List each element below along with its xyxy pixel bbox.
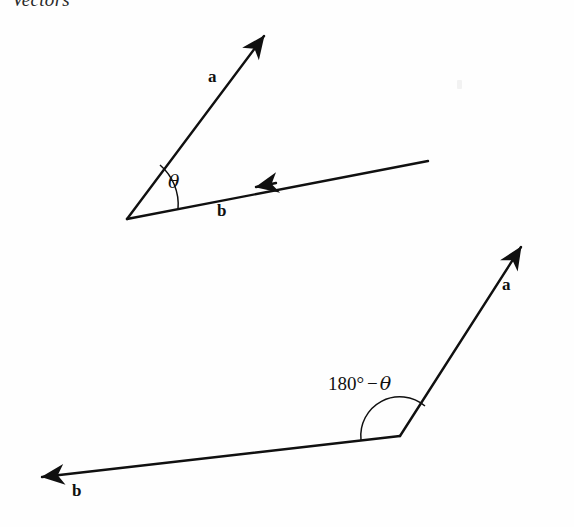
vector-b-shaft-bottom [42, 436, 400, 477]
supplement-theta-glyph: θ [380, 372, 391, 394]
angle-label-theta: θ [168, 172, 179, 191]
vector-b-label-bottom: b [72, 482, 81, 499]
vector-a-shaft-top [127, 36, 264, 219]
vector-b-arrowhead-top [256, 183, 276, 187]
supplement-degrees: 180° [328, 373, 364, 394]
vectors-figure-page: Vectors [0, 0, 574, 527]
angle-label-supplement: 180°−θ [328, 374, 391, 393]
theta-glyph: θ [168, 170, 179, 192]
supplement-minus: − [367, 373, 378, 394]
vector-a-label-bottom: a [502, 276, 511, 293]
vector-a-label-top: a [208, 68, 217, 85]
angle-arc-supplement [361, 397, 425, 440]
obtuse-angle-figure [42, 247, 521, 477]
figure-drawing-canvas [0, 0, 574, 527]
vector-b-label-top: b [217, 202, 226, 219]
